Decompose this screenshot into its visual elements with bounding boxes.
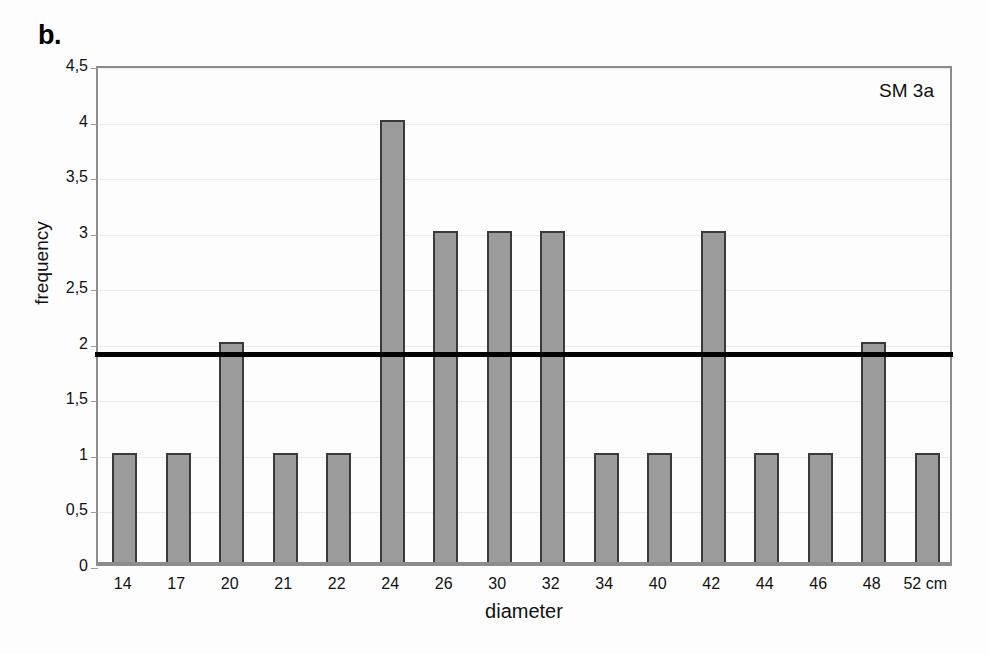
y-tick-label: 3,5 xyxy=(30,169,88,185)
x-tick-label: 22 xyxy=(310,576,364,592)
bar xyxy=(915,453,940,564)
x-tick-label: 42 xyxy=(685,576,739,592)
bar-series xyxy=(98,68,950,564)
y-tick-mark xyxy=(91,235,98,236)
y-tick-label: 4 xyxy=(30,114,88,130)
series-annotation-label: SM 3a xyxy=(879,80,934,102)
bar xyxy=(754,453,779,564)
bar xyxy=(166,453,191,564)
plot-area: SM 3a xyxy=(96,66,952,566)
bar xyxy=(701,231,726,564)
x-axis-baseline xyxy=(98,562,950,564)
x-tick-label: 21 xyxy=(257,576,311,592)
x-axis-title: diameter xyxy=(96,600,952,623)
y-tick-label: 0,5 xyxy=(30,502,88,518)
x-tick-label: 52 cm xyxy=(899,576,953,592)
bar xyxy=(487,231,512,564)
y-tick-mark xyxy=(91,346,98,347)
bar xyxy=(433,231,458,564)
y-tick-label: 2,5 xyxy=(30,280,88,296)
bar xyxy=(808,453,833,564)
bar xyxy=(540,231,565,564)
y-tick-label: 4,5 xyxy=(30,58,88,74)
x-tick-label: 24 xyxy=(364,576,418,592)
y-tick-label: 1,5 xyxy=(30,391,88,407)
y-tick-mark xyxy=(91,68,98,69)
y-tick-label: 2 xyxy=(30,336,88,352)
x-tick-label: 48 xyxy=(845,576,899,592)
x-tick-label: 40 xyxy=(631,576,685,592)
figure-panel: b. frequency diameter SM 3a 00,511,522,5… xyxy=(0,0,988,654)
x-tick-label: 46 xyxy=(792,576,846,592)
y-axis-title: frequency xyxy=(31,203,53,323)
y-tick-mark xyxy=(91,401,98,402)
y-tick-mark xyxy=(91,568,98,569)
y-tick-mark xyxy=(91,512,98,513)
y-tick-label: 1 xyxy=(30,447,88,463)
threshold-line xyxy=(95,352,953,357)
bar xyxy=(219,342,244,564)
x-tick-label: 14 xyxy=(96,576,150,592)
x-tick-label: 26 xyxy=(417,576,471,592)
y-tick-mark xyxy=(91,124,98,125)
bar xyxy=(861,342,886,564)
y-tick-mark xyxy=(91,457,98,458)
bar xyxy=(326,453,351,564)
bar xyxy=(380,120,405,564)
x-tick-label: 44 xyxy=(738,576,792,592)
y-tick-mark xyxy=(91,179,98,180)
panel-letter-label: b. xyxy=(38,22,61,49)
x-tick-label: 30 xyxy=(471,576,525,592)
bar xyxy=(594,453,619,564)
x-tick-label: 20 xyxy=(203,576,257,592)
x-tick-label: 32 xyxy=(524,576,578,592)
x-tick-label: 34 xyxy=(578,576,632,592)
bar xyxy=(273,453,298,564)
x-tick-label: 17 xyxy=(150,576,204,592)
y-tick-label: 3 xyxy=(30,225,88,241)
y-tick-mark xyxy=(91,290,98,291)
bar xyxy=(647,453,672,564)
bar xyxy=(112,453,137,564)
y-tick-label: 0 xyxy=(30,558,88,574)
